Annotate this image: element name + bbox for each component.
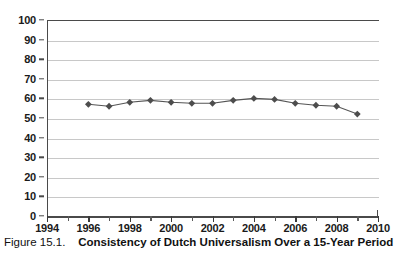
y-tick-mark bbox=[39, 117, 44, 118]
y-tick-label: 70 bbox=[24, 73, 36, 85]
x-tick-mark-minor bbox=[233, 216, 234, 221]
y-tick-mark bbox=[39, 58, 44, 59]
x-tick-label: 2006 bbox=[283, 222, 307, 234]
y-tick-mark bbox=[39, 215, 44, 216]
y-tick-mark bbox=[39, 98, 44, 99]
y-axis: 0102030405060708090100 bbox=[0, 20, 44, 216]
x-tick-label: 1994 bbox=[35, 222, 59, 234]
x-tick-mark-minor bbox=[109, 216, 110, 221]
y-tick-label: 30 bbox=[24, 151, 36, 163]
y-tick-mark bbox=[39, 196, 44, 197]
y-tick-label: 10 bbox=[24, 190, 36, 202]
y-tick-mark bbox=[39, 156, 44, 157]
x-tick-label: 2002 bbox=[201, 222, 225, 234]
data-point-marker bbox=[85, 101, 92, 108]
data-point-marker bbox=[292, 100, 299, 107]
x-tick-mark-minor bbox=[357, 216, 358, 221]
data-point-marker bbox=[147, 97, 154, 104]
y-tick-mark bbox=[39, 137, 44, 138]
y-tick-mark bbox=[39, 176, 44, 177]
caption-title: Consistency of Dutch Universalism Over a… bbox=[78, 236, 393, 248]
x-tick-label: 2010 bbox=[366, 222, 390, 234]
x-tick-mark-minor bbox=[192, 216, 193, 221]
data-point-marker bbox=[106, 103, 113, 110]
y-tick-mark bbox=[39, 78, 44, 79]
x-tick-mark-minor bbox=[275, 216, 276, 221]
y-tick-label: 90 bbox=[24, 34, 36, 46]
figure-container: 0102030405060708090100 19941996199820002… bbox=[0, 0, 401, 256]
y-tick-label: 20 bbox=[24, 171, 36, 183]
x-tick-label: 1996 bbox=[77, 222, 101, 234]
data-point-marker bbox=[333, 103, 340, 110]
y-tick-label: 80 bbox=[24, 53, 36, 65]
data-point-marker bbox=[271, 96, 278, 103]
y-tick-mark bbox=[39, 39, 44, 40]
caption-number: Figure 15.1. bbox=[4, 236, 65, 248]
y-tick-mark bbox=[39, 19, 44, 20]
x-tick-mark-minor bbox=[316, 216, 317, 221]
data-point-marker bbox=[209, 100, 216, 107]
data-point-marker bbox=[354, 111, 361, 118]
y-tick-label: 50 bbox=[24, 112, 36, 124]
data-point-marker bbox=[250, 95, 257, 102]
x-tick-label: 2004 bbox=[242, 222, 266, 234]
y-tick-label: 0 bbox=[30, 210, 36, 222]
x-tick-label: 2000 bbox=[159, 222, 183, 234]
y-tick-label: 100 bbox=[18, 14, 36, 26]
data-point-marker bbox=[230, 97, 237, 104]
y-tick-label: 60 bbox=[24, 92, 36, 104]
y-tick-label: 40 bbox=[24, 132, 36, 144]
x-tick-label: 2008 bbox=[325, 222, 349, 234]
data-point-marker bbox=[126, 99, 133, 106]
x-tick-mark-minor bbox=[150, 216, 151, 221]
data-point-marker bbox=[313, 102, 320, 109]
data-point-marker bbox=[168, 99, 175, 106]
figure-caption: Figure 15.1. Consistency of Dutch Univer… bbox=[4, 236, 398, 248]
data-series bbox=[47, 20, 378, 216]
x-tick-label: 1998 bbox=[118, 222, 142, 234]
x-tick-mark-minor bbox=[68, 216, 69, 221]
data-point-marker bbox=[188, 100, 195, 107]
